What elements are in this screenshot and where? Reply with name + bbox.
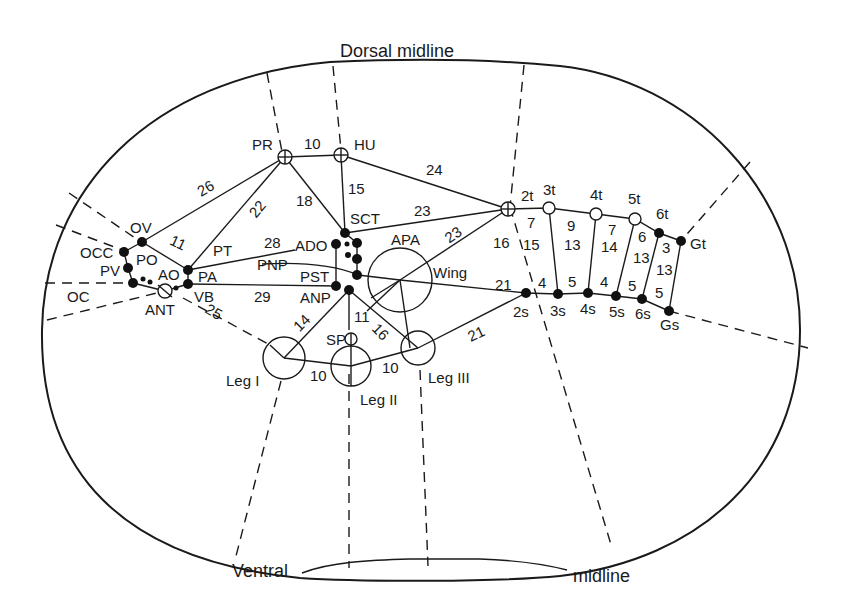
- label-leg-i: Leg I: [226, 372, 259, 389]
- svg-text:10: 10: [382, 359, 399, 376]
- label-ado: ADO: [295, 237, 328, 254]
- svg-text:15: 15: [523, 236, 540, 253]
- ventral-midline-curve-right: [480, 559, 567, 570]
- label-ant: ANT: [145, 301, 175, 318]
- svg-text:7: 7: [608, 221, 616, 238]
- midline-label: midline: [573, 566, 630, 586]
- label-apa: APA: [391, 231, 420, 248]
- svg-text:7: 7: [527, 214, 535, 231]
- label-2t: 2t: [521, 187, 534, 204]
- svg-text:23: 23: [414, 202, 431, 219]
- dorsal-midline-label: Dorsal midline: [340, 41, 454, 61]
- svg-text:4: 4: [600, 273, 608, 290]
- label-pst: PST: [300, 268, 329, 285]
- node-pr-crosshair-icon: [278, 150, 292, 164]
- svg-text:13: 13: [564, 236, 581, 253]
- label-leg-iii: Leg III: [428, 369, 470, 386]
- ventral-label: Ventral: [232, 561, 288, 581]
- label-sct: SCT: [350, 210, 380, 227]
- svg-text:4: 4: [538, 274, 546, 291]
- svg-text:14: 14: [601, 238, 618, 255]
- svg-text:21: 21: [495, 276, 512, 293]
- svg-text:10: 10: [310, 367, 327, 384]
- label-oc: OC: [67, 288, 90, 305]
- body-outline: [42, 60, 800, 581]
- label-pa: PA: [198, 268, 217, 285]
- label-wing: Wing: [433, 264, 467, 281]
- node-3t: [543, 202, 555, 214]
- ventral-midline-curve-left: [302, 559, 480, 573]
- svg-text:11: 11: [168, 231, 189, 253]
- svg-text:23: 23: [441, 223, 464, 246]
- svg-text:5: 5: [655, 284, 663, 301]
- label-3s: 3s: [550, 302, 566, 319]
- label-sp: SP: [326, 331, 346, 348]
- svg-text:15: 15: [348, 180, 365, 197]
- node-5t: [629, 213, 641, 225]
- label-gs: Gs: [660, 316, 679, 333]
- node-4t: [590, 208, 602, 220]
- svg-text:22: 22: [245, 197, 269, 221]
- svg-text:28: 28: [264, 234, 281, 251]
- insect-body-map-diagram: Dorsal midline Ventral midline PR HU OV …: [0, 0, 843, 607]
- svg-text:5: 5: [628, 277, 636, 294]
- svg-text:9: 9: [567, 217, 575, 234]
- svg-text:21: 21: [465, 322, 487, 344]
- label-ao: AO: [158, 266, 180, 283]
- label-2s: 2s: [513, 303, 529, 320]
- svg-text:29: 29: [254, 288, 271, 305]
- svg-text:3: 3: [662, 239, 670, 256]
- svg-text:16: 16: [493, 234, 510, 251]
- node-hu-crosshair-icon: [334, 148, 348, 162]
- svg-text:5: 5: [568, 273, 576, 290]
- label-gt: Gt: [690, 235, 707, 252]
- label-6t: 6t: [656, 205, 669, 222]
- label-po: PO: [136, 251, 158, 268]
- label-5t: 5t: [628, 190, 641, 207]
- svg-text:13: 13: [633, 249, 650, 266]
- label-hu: HU: [354, 136, 376, 153]
- label-pv: PV: [100, 262, 120, 279]
- svg-text:10: 10: [304, 135, 321, 152]
- label-5s: 5s: [609, 303, 625, 320]
- label-pt: PT: [213, 242, 232, 259]
- svg-text:6: 6: [638, 228, 646, 245]
- svg-text:18: 18: [296, 192, 313, 209]
- label-leg-ii: Leg II: [360, 391, 398, 408]
- node-2t-crosshair-icon: [501, 202, 515, 216]
- label-anp: ANP: [300, 289, 331, 306]
- label-4t: 4t: [590, 186, 603, 203]
- svg-text:11: 11: [354, 308, 370, 325]
- label-pr: PR: [252, 136, 273, 153]
- node-ant-crosshair-icon: [158, 284, 172, 298]
- svg-text:13: 13: [656, 261, 673, 278]
- svg-text:26: 26: [194, 176, 217, 199]
- open-nodes: [543, 202, 641, 225]
- label-occ: OCC: [80, 244, 114, 261]
- label-6s: 6s: [635, 305, 651, 322]
- svg-text:24: 24: [426, 161, 443, 178]
- label-3t: 3t: [543, 181, 556, 198]
- label-ov: OV: [130, 219, 152, 236]
- label-4s: 4s: [580, 300, 596, 317]
- label-pnp: PNP: [257, 256, 288, 273]
